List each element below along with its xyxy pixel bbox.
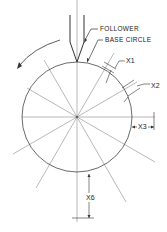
dimension-x1 bbox=[102, 61, 125, 83]
center-point bbox=[76, 116, 79, 119]
x1-label: X1 bbox=[126, 57, 135, 64]
x2-label: X2 bbox=[151, 82, 160, 89]
radial-line-60 bbox=[77, 82, 137, 117]
rotation-arrow-icon bbox=[17, 40, 60, 69]
radial-line-330 bbox=[44, 60, 77, 117]
dimension-x2 bbox=[122, 80, 150, 102]
radial-line-210 bbox=[36, 117, 77, 188]
base-circle-leader bbox=[88, 40, 103, 61]
x3-label: X3 bbox=[138, 123, 147, 130]
follower-label: FOLLOWER bbox=[100, 25, 139, 32]
base-circle-label: BASE CIRCLE bbox=[105, 36, 152, 43]
radial-line-300 bbox=[27, 88, 77, 117]
x6-label: X6 bbox=[86, 194, 95, 201]
cam-diagram: FOLLOWER BASE CIRCLE X1 X2 X3 X6 bbox=[0, 0, 167, 232]
radial-line-150 bbox=[77, 117, 126, 202]
follower-leader bbox=[85, 29, 98, 40]
